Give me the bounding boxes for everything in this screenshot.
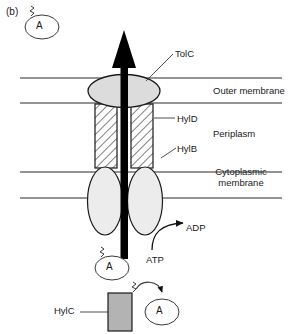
substrate-modified-letter: A: [156, 305, 163, 316]
hyld-right-subunit: [131, 104, 153, 168]
label-hylc: HylC: [54, 305, 75, 316]
substrate-top-left-letter: A: [36, 20, 43, 31]
hylb-left-subunit: [88, 167, 123, 235]
hyld-left-subunit: [95, 104, 117, 168]
label-cytoplasmic-membrane: Cytoplasmic membrane: [206, 166, 276, 188]
label-outer-membrane: Outer membrane: [213, 85, 285, 96]
label-hyld: HylD: [177, 113, 198, 124]
label-hylb: HylB: [177, 143, 197, 154]
label-tolc: TolC: [175, 48, 194, 59]
label-periplasm: Periplasm: [213, 128, 255, 139]
label-adp: ADP: [186, 222, 206, 233]
label-atp: ATP: [146, 254, 164, 265]
hylb-right-subunit: [128, 167, 163, 235]
hylc-protein: [108, 293, 132, 331]
panel-letter: (b): [6, 6, 18, 17]
substrate-cytoplasm-letter: A: [106, 261, 113, 272]
